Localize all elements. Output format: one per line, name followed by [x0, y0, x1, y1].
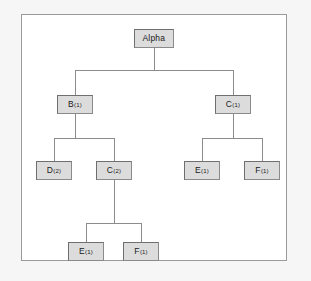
tree-node-c2-subscript: (2) — [113, 168, 121, 174]
tree-node-b1-label: B — [68, 100, 74, 109]
tree-node-c1-subscript: (1) — [232, 102, 240, 108]
tree-node-alpha[interactable]: Alpha — [134, 29, 174, 48]
tree-node-f1-bottom[interactable]: F(1) — [123, 242, 159, 261]
diagram-panel: Alpha B(1) C(1) D(2) C(2) E(1) F(1) E(1)… — [21, 14, 287, 261]
tree-node-c1-label: C — [226, 100, 232, 109]
tree-node-f1-bottom-subscript: (1) — [140, 249, 148, 255]
tree-node-b1-subscript: (1) — [74, 102, 82, 108]
tree-node-alpha-label: Alpha — [142, 34, 165, 43]
tree-node-d2-label: D — [47, 166, 53, 175]
tree-node-e1-bottom-subscript: (1) — [85, 249, 93, 255]
tree-node-e1-right-label: E — [195, 166, 201, 175]
tree-node-f1-right-subscript: (1) — [261, 168, 269, 174]
screenshot-canvas: Alpha B(1) C(1) D(2) C(2) E(1) F(1) E(1)… — [0, 0, 311, 281]
tree-node-e1-bottom-label: E — [79, 247, 85, 256]
tree-node-c2[interactable]: C(2) — [96, 161, 132, 180]
tree-node-f1-bottom-label: F — [134, 247, 139, 256]
tree-node-c1[interactable]: C(1) — [215, 95, 251, 114]
tree-node-f1-right[interactable]: F(1) — [244, 161, 280, 180]
tree-node-d2-subscript: (2) — [53, 168, 61, 174]
tree-node-d2[interactable]: D(2) — [36, 161, 72, 180]
tree-node-f1-right-label: F — [255, 166, 260, 175]
tree-node-e1-right-subscript: (1) — [201, 168, 209, 174]
tree-node-e1-bottom[interactable]: E(1) — [68, 242, 104, 261]
tree-edges-layer — [22, 15, 286, 260]
tree-node-b1[interactable]: B(1) — [57, 95, 93, 114]
tree-node-e1-right[interactable]: E(1) — [184, 161, 220, 180]
tree-node-c2-label: C — [107, 166, 113, 175]
